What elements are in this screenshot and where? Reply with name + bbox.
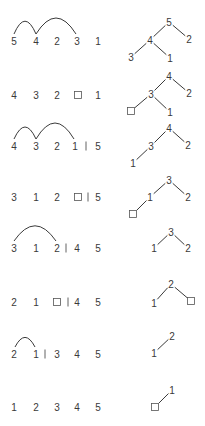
tree-node: 2 — [168, 279, 174, 290]
array-value: 1 — [33, 243, 39, 254]
tree-edge — [159, 394, 169, 404]
tree-node: 1 — [147, 192, 153, 203]
step-row: 123451 — [11, 385, 175, 413]
tree-node: 4 — [166, 71, 172, 82]
array-value: 3 — [11, 243, 17, 254]
array-sequence: 54231 — [11, 18, 101, 47]
tree-node: 1 — [151, 298, 157, 309]
tree-node: 4 — [166, 123, 172, 134]
heap-tree: 21 — [151, 331, 175, 359]
heap-tree: 54231 — [128, 17, 192, 64]
array-value: 1 — [95, 90, 101, 101]
array-sequence: 43215 — [11, 123, 101, 152]
heap-tree: 312 — [151, 227, 191, 254]
tree-edge — [135, 43, 147, 53]
tree-node: 1 — [151, 243, 157, 254]
tree-edge — [155, 97, 167, 108]
tree-node: 1 — [151, 348, 157, 359]
array-value: 3 — [74, 36, 80, 47]
tree-node: 5 — [166, 17, 172, 28]
tree-node: 3 — [166, 175, 172, 186]
tree-node: 3 — [148, 89, 154, 100]
array-value: 2 — [54, 36, 60, 47]
step-row: 31245312 — [11, 226, 191, 254]
empty-slot-icon — [128, 108, 135, 115]
array-sequence: 3125 — [11, 192, 101, 203]
array-value: 5 — [95, 141, 101, 152]
tree-edge — [135, 97, 147, 108]
array-value: 5 — [11, 36, 17, 47]
tree-node: 1 — [169, 385, 175, 396]
swap-arc — [14, 226, 56, 241]
tree-node: 3 — [168, 227, 174, 238]
step-row: 43214321 — [11, 71, 192, 118]
array-value: 1 — [11, 402, 17, 413]
tree-node: 3 — [128, 52, 134, 63]
empty-slot-icon — [188, 298, 195, 305]
empty-slot-icon — [130, 211, 137, 218]
tree-edge — [155, 80, 166, 91]
tree-edge — [158, 339, 169, 349]
tree-edge — [154, 43, 167, 54]
array-value: 5 — [95, 402, 101, 413]
step-row: 5423154231 — [11, 17, 192, 64]
array-value: 1 — [33, 192, 39, 203]
heap-tree: 4321 — [128, 71, 193, 118]
tree-edge — [154, 25, 166, 36]
array-value: 3 — [33, 90, 39, 101]
step-row: 432154321 — [11, 123, 191, 169]
step-row: 2134521 — [11, 331, 175, 360]
tree-edge — [157, 288, 167, 300]
array-value: 4 — [33, 36, 39, 47]
array-value: 2 — [33, 402, 39, 413]
tree-edge — [175, 235, 185, 244]
array-value: 1 — [72, 141, 78, 152]
swap-arc — [36, 18, 76, 34]
tree-edge — [173, 183, 185, 193]
array-value: 5 — [95, 349, 101, 360]
array-sequence: 31245 — [11, 226, 101, 254]
heapsort-steps: 5423154231432143214321543213125312312453… — [11, 17, 194, 413]
tree-node: 3 — [148, 141, 154, 152]
tree-node: 1 — [167, 107, 173, 118]
array-value: 4 — [11, 141, 17, 152]
array-value: 1 — [95, 36, 101, 47]
array-value: 2 — [54, 90, 60, 101]
tree-node: 2 — [185, 140, 191, 151]
array-value: 4 — [74, 297, 80, 308]
swap-arc — [15, 337, 35, 347]
tree-edge — [154, 183, 166, 193]
array-sequence: 2145 — [11, 297, 101, 308]
array-value: 2 — [54, 141, 60, 152]
heapsort-diagram: Heapsort steps: array sequences with swa… — [0, 0, 205, 426]
array-value: 1 — [33, 297, 39, 308]
array-sequence: 12345 — [11, 402, 101, 413]
tree-edge — [137, 201, 147, 211]
array-value: 4 — [74, 349, 80, 360]
tree-edge — [158, 235, 168, 244]
tree-edge — [173, 25, 185, 36]
empty-slot-icon — [152, 404, 159, 411]
array-value: 4 — [74, 243, 80, 254]
array-value: 5 — [95, 297, 101, 308]
tree-node: 4 — [147, 35, 153, 46]
tree-node: 1 — [130, 158, 136, 169]
tree-node: 2 — [185, 192, 191, 203]
array-value: 3 — [54, 402, 60, 413]
tree-edge — [155, 132, 166, 143]
array-value: 2 — [54, 192, 60, 203]
array-value: 2 — [54, 243, 60, 254]
array-value: 3 — [54, 349, 60, 360]
array-sequence: 21345 — [11, 337, 101, 359]
tree-node: 2 — [186, 34, 192, 45]
heap-tree: 4321 — [130, 123, 191, 169]
empty-slot-icon — [75, 92, 82, 99]
heap-tree: 312 — [130, 175, 192, 218]
empty-slot-icon — [54, 299, 61, 306]
array-value: 4 — [74, 402, 80, 413]
array-sequence: 4321 — [11, 90, 101, 101]
array-value: 5 — [95, 192, 101, 203]
tree-edge — [137, 149, 148, 159]
tree-node: 1 — [167, 53, 173, 64]
swap-arc — [14, 21, 36, 34]
